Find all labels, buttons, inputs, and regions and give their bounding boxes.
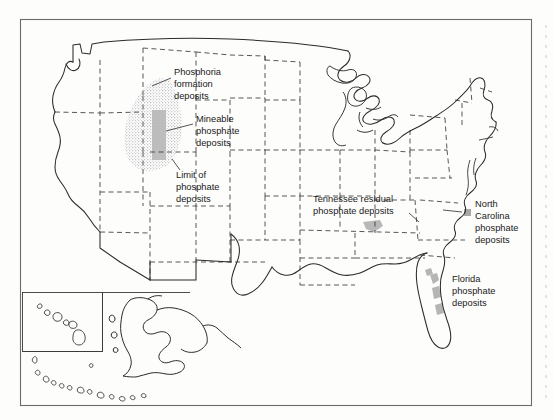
mineable-band: [152, 110, 166, 160]
us-phosphate-deposits-map: Phosphoria formation deposits Mineable p…: [0, 0, 553, 420]
